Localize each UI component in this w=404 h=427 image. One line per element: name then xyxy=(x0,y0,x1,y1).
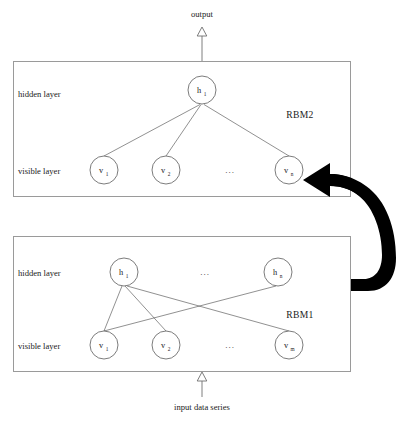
rbm2-node-v1: v 1 xyxy=(90,156,118,184)
rbm1-label: RBM1 xyxy=(286,309,313,320)
rbm2-edges xyxy=(104,105,289,157)
rbm2-node-vn: v n xyxy=(275,156,303,184)
rbm1-to-rbm2-arrow xyxy=(303,163,396,291)
rbm1-edges xyxy=(104,286,289,331)
rbm1-edge-v1-hn xyxy=(104,286,276,331)
output-arrow-group: output xyxy=(191,9,214,61)
rbm1-node-v2: v 2 xyxy=(152,331,180,359)
rbm-stack-diagram: output RBM2 hidden layer visible layer h… xyxy=(0,0,404,427)
rbm1-hidden-layer-label: hidden layer xyxy=(18,268,61,278)
rbm2-edge-vn-h1 xyxy=(204,105,289,157)
rbm1-hidden-ellipsis: ... xyxy=(200,267,210,277)
rbm2-hidden-layer-label: hidden layer xyxy=(18,89,61,99)
rbm1-edge-v2-h1 xyxy=(125,286,166,331)
input-label: input data series xyxy=(174,402,230,412)
rbm2-node-v1-sub: 1 xyxy=(106,171,109,177)
rbm1-node-hn-circle xyxy=(264,258,292,286)
rbm2-node-vn-circle xyxy=(275,156,303,184)
output-label: output xyxy=(191,9,214,19)
rbm2-node-v2: v 2 xyxy=(152,156,180,184)
rbm1-visible-ellipsis: ... xyxy=(225,340,235,350)
rbm2-node-h1: h 1 xyxy=(188,76,216,104)
rbm2-node-v2-circle xyxy=(152,156,180,184)
rbm2-node-h1-circle xyxy=(188,76,216,104)
rbm2-label: RBM2 xyxy=(286,109,313,120)
rbm1-node-v1-sub: 1 xyxy=(106,346,109,352)
rbm1-node-v1: v 1 xyxy=(90,331,118,359)
rbm2-edge-v2-h1 xyxy=(166,105,201,157)
rbm1-node-h1: h 1 xyxy=(110,258,138,286)
rbm1-visible-layer-label: visible layer xyxy=(18,341,60,351)
rbm1-node-hn-sub: n xyxy=(280,273,283,279)
output-arrow-head-icon xyxy=(197,27,207,36)
diagram-canvas: output RBM2 hidden layer visible layer h… xyxy=(0,0,404,427)
rbm2-node-v1-circle xyxy=(90,156,118,184)
rbm2-edge-v1-h1 xyxy=(104,105,200,157)
rbm2-visible-ellipsis: ... xyxy=(225,165,235,175)
rbm1-block: RBM1 hidden layer visible layer h 1 ... … xyxy=(14,237,351,372)
rbm2-visible-layer-label: visible layer xyxy=(18,166,60,176)
rbm1-node-vm-circle xyxy=(275,331,303,359)
rbm1-node-h1-sub: 1 xyxy=(126,273,129,279)
rbm1-node-h1-circle xyxy=(110,258,138,286)
rbm1-node-v1-circle xyxy=(90,331,118,359)
input-arrow-head-icon xyxy=(197,372,207,381)
rbm2-block: RBM2 hidden layer visible layer h 1 v 1 xyxy=(14,62,351,197)
rbm1-node-v2-circle xyxy=(152,331,180,359)
rbm1-edge-v1-h1 xyxy=(104,286,122,331)
rbm1-edge-vm-h1 xyxy=(127,286,289,331)
rbm1-node-vm: v m xyxy=(275,331,303,359)
rbm1-node-v2-sub: 2 xyxy=(168,346,171,352)
input-arrow-group: input data series xyxy=(174,372,230,412)
rbm2-node-v2-sub: 2 xyxy=(168,171,171,177)
rbm2-node-h1-sub: 1 xyxy=(204,91,207,97)
rbm2-node-vn-sub: n xyxy=(291,171,294,177)
rbm1-node-hn: h n xyxy=(264,258,292,286)
